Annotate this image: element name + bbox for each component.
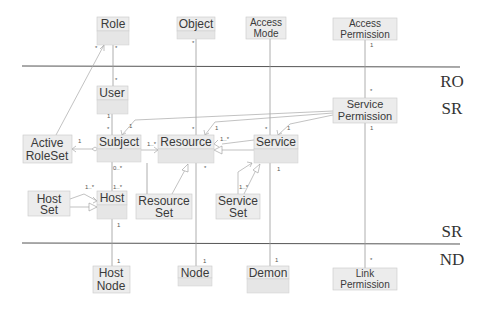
multiplicity-label: 1	[215, 125, 219, 131]
multiplicity-label: 1	[117, 222, 121, 228]
multiplicity-label: *	[204, 165, 207, 171]
multiplicity-label: 0..*	[113, 165, 123, 171]
class-link-permission[interactable]: Link Permission	[333, 268, 397, 290]
class-label: Permission	[340, 279, 389, 290]
class-host-node[interactable]: Host Node	[93, 266, 130, 293]
layer-label-sr-top: SR	[442, 99, 463, 118]
class-label: Subject	[99, 135, 140, 149]
multiplicity-label: *	[370, 257, 373, 263]
class-access-mode[interactable]: Access Mode	[246, 17, 286, 39]
class-user[interactable]: User	[97, 86, 128, 114]
class-service-permission[interactable]: Service Permission	[333, 98, 397, 123]
multiplicity-label: *	[265, 126, 268, 132]
multiplicity-label: 1	[370, 42, 374, 48]
class-resource[interactable]: Resource	[158, 135, 214, 163]
class-label: Demon	[249, 266, 288, 280]
multiplicity-label: 1	[117, 258, 121, 264]
multiplicity-label: 1..*	[239, 184, 249, 190]
class-label: Permission	[338, 110, 392, 122]
class-label: Set	[229, 206, 248, 220]
uml-layered-class-diagram: Role Object Access Mode Access Permissio…	[0, 0, 480, 311]
layer-label-sr-bottom: SR	[442, 222, 463, 241]
class-host-set[interactable]: Host Set	[28, 191, 70, 217]
class-node[interactable]: Node	[178, 266, 212, 286]
class-label: Service	[256, 135, 296, 149]
vertical-connectors	[112, 39, 365, 268]
class-label: Access	[349, 18, 381, 29]
class-service[interactable]: Service	[254, 135, 298, 163]
class-label: Permission	[340, 29, 389, 40]
class-label: Resource	[160, 135, 212, 149]
multiplicity-label: *	[95, 45, 98, 51]
multiplicity-label: 1	[287, 125, 291, 131]
multiplicity-label: 1..*	[147, 141, 157, 147]
multiplicity-label: *	[370, 88, 373, 94]
multiplicity-label: *	[192, 40, 195, 46]
class-resource-set[interactable]: Resource Set	[136, 194, 192, 220]
class-label: Node	[97, 279, 126, 293]
class-label: Link	[356, 268, 375, 279]
class-host[interactable]: Host	[97, 191, 127, 219]
class-object[interactable]: Object	[177, 17, 215, 39]
class-subject[interactable]: Subject	[97, 135, 141, 162]
class-label: Host	[100, 191, 125, 205]
layer-label-nd: ND	[440, 250, 465, 269]
class-service-set[interactable]: Service Set	[216, 194, 260, 220]
class-label: Host	[99, 266, 124, 280]
class-label: Set	[155, 206, 174, 220]
class-access-permission[interactable]: Access Permission	[333, 18, 397, 40]
class-label: User	[99, 86, 124, 100]
multiplicity-label: *	[107, 126, 110, 132]
class-label: Service	[347, 98, 384, 110]
class-label: Mode	[253, 28, 278, 39]
multiplicity-label: 1..*	[220, 136, 230, 142]
association-lines	[56, 45, 333, 211]
multiplicity-label: *	[115, 77, 118, 83]
multiplicity-label: 1	[203, 258, 207, 264]
layer-label-ro: RO	[440, 72, 464, 91]
class-label: Node	[181, 266, 210, 280]
class-active-roleset[interactable]: Active RoleSet	[23, 135, 72, 163]
class-label: Access	[250, 17, 282, 28]
multiplicity-label: 1..*	[85, 184, 95, 190]
multiplicity-label: 1	[129, 123, 133, 129]
multiplicity-label: 1	[370, 125, 374, 131]
class-label: Active	[31, 136, 64, 150]
multiplicity-label: *	[115, 45, 118, 51]
layer-divider-sr-nd	[22, 243, 460, 244]
class-label: RoleSet	[26, 149, 69, 163]
class-label: Role	[101, 17, 126, 31]
multiplicity-label: 1	[275, 257, 279, 263]
class-label: Set	[40, 203, 59, 217]
layer-divider-ro-sr	[22, 66, 460, 67]
class-demon[interactable]: Demon	[247, 266, 289, 293]
multiplicity-label: *	[192, 126, 195, 132]
multiplicity-label: 1	[78, 138, 82, 144]
multiplicity-label: 1	[277, 166, 281, 172]
multiplicity-label: 1..*	[113, 184, 123, 190]
class-label: Object	[179, 17, 214, 31]
class-role[interactable]: Role	[97, 17, 129, 45]
